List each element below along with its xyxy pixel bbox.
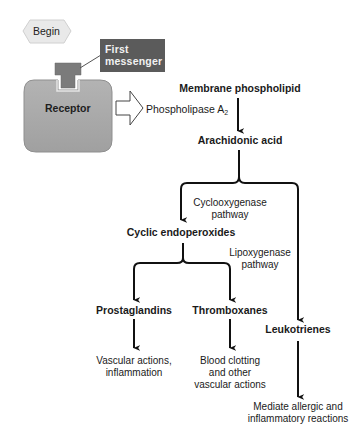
effect-thromboxanes: Blood clotting and other vascular action…	[194, 355, 266, 391]
enzyme-label: Phospholipase A2	[146, 104, 228, 116]
effect-prostaglandins: Vascular actions, inflammation	[96, 355, 171, 379]
messenger-connector	[80, 55, 101, 68]
bracket-cyclic	[134, 243, 230, 292]
effect-leukotrienes-line2: inflammatory reactions	[248, 413, 349, 425]
node-leukotrienes: Leukotrienes	[265, 324, 330, 335]
cyclooxygenase-line1: Cyclooxygenase	[193, 197, 266, 209]
effect-leukotrienes-line1: Mediate allergic and	[248, 401, 349, 413]
begin-label: Begin	[33, 26, 60, 37]
lipoxygenase-line1: Lipoxygenase	[229, 247, 291, 259]
first-messenger-label: First messenger	[105, 43, 162, 67]
lipoxygenase-line2: pathway	[229, 259, 291, 271]
cyclooxygenase-line2: pathway	[193, 209, 266, 221]
node-arachidonic-acid: Arachidonic acid	[198, 135, 283, 146]
hollow-arrow-icon	[116, 91, 143, 125]
enzyme-name: Phospholipase A	[146, 103, 224, 115]
node-membrane-phospholipid: Membrane phospholipid	[179, 83, 300, 94]
effect-thromboxanes-line3: vascular actions	[194, 379, 266, 391]
first-messenger-line1: First	[105, 43, 162, 55]
first-messenger-line2: messenger	[105, 55, 162, 67]
ligand-shape	[55, 63, 81, 88]
effect-prostaglandins-line1: Vascular actions,	[96, 355, 171, 367]
diagram-canvas	[0, 0, 362, 436]
label-cyclooxygenase-pathway: Cyclooxygenase pathway	[193, 197, 266, 221]
effect-thromboxanes-line1: Blood clotting	[194, 355, 266, 367]
effect-leukotrienes: Mediate allergic and inflammatory reacti…	[248, 401, 349, 425]
enzyme-subscript: 2	[224, 109, 228, 116]
node-prostaglandins: Prostaglandins	[96, 305, 172, 316]
receptor-label: Receptor	[45, 103, 91, 114]
node-thromboxanes: Thromboxanes	[192, 305, 267, 316]
node-cyclic-endoperoxides: Cyclic endoperoxides	[127, 227, 236, 238]
label-lipoxygenase-pathway: Lipoxygenase pathway	[229, 247, 291, 271]
effect-thromboxanes-line2: and other	[194, 367, 266, 379]
effect-prostaglandins-line2: inflammation	[96, 367, 171, 379]
